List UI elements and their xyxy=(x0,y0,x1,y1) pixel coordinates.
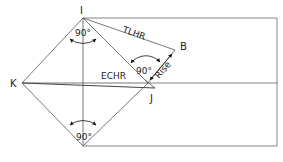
edge-k-i xyxy=(22,18,83,83)
label-b: B xyxy=(180,41,187,52)
label-angle-bottom: 90° xyxy=(76,132,92,142)
roof-geometry-diagram: I K B J TLHR ECHR Rise 90° 90° 90° xyxy=(0,0,283,162)
label-echr: ECHR xyxy=(101,71,126,81)
angle-arc-mid xyxy=(131,56,160,63)
label-rise: Rise xyxy=(153,59,173,80)
label-k: K xyxy=(10,78,17,89)
plan-rectangle xyxy=(83,18,277,146)
edge-bottom-j xyxy=(83,83,148,146)
echr-line xyxy=(22,83,155,88)
label-angle-mid: 90° xyxy=(136,66,152,76)
label-i: I xyxy=(80,5,83,16)
label-angle-top: 90° xyxy=(75,28,91,38)
label-tlhr: TLHR xyxy=(120,24,146,41)
edge-k-bottom xyxy=(22,83,83,146)
label-j: J xyxy=(149,93,153,104)
